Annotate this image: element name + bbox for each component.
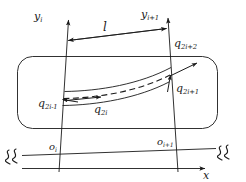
beam-neutral-axis-dashed <box>64 75 171 99</box>
dof-arrow-q2i+2 <box>170 63 197 76</box>
dof-label-q2i: q2i <box>94 104 107 115</box>
beam-element-curve <box>63 68 172 106</box>
axis-label-x: x <box>203 170 209 181</box>
origin-label-right: oi+1 <box>157 137 174 147</box>
length-dimension-label: l <box>103 21 107 33</box>
axis-label-y-left: yi <box>34 11 42 22</box>
axis-label-y-right: yi+1 <box>141 9 159 20</box>
diagram-vector-layer <box>0 0 246 182</box>
figure-canvas: yi yi+1 l q2i+2 q2i+1 q2i-1 q2i oi oi+1 … <box>0 0 246 182</box>
y-axis-left <box>59 20 69 172</box>
dof-label-q2i+2: q2i+2 <box>174 38 197 49</box>
break-symbol-left <box>5 149 17 164</box>
break-symbol-right <box>217 145 229 160</box>
dof-label-q2i+1: q2i+1 <box>176 83 199 94</box>
origin-label-left: oi <box>49 142 57 152</box>
dof-arrow-q2i+1 <box>168 75 171 92</box>
length-dimension-line <box>68 29 166 41</box>
dof-label-q2i-1: q2i-1 <box>38 98 57 109</box>
